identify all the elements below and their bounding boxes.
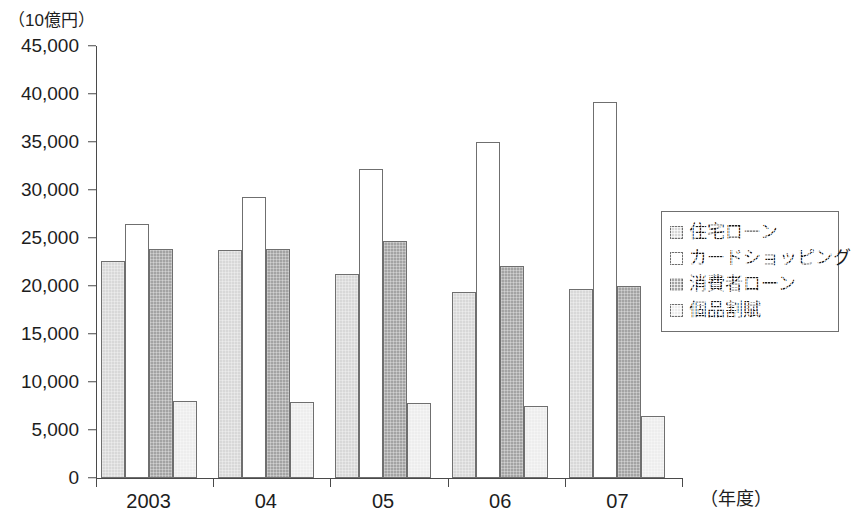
y-axis-tick-label: 5,000 xyxy=(31,419,79,441)
y-axis-tick-label: 40,000 xyxy=(21,83,79,105)
legend-swatch-icon xyxy=(670,226,683,239)
bar xyxy=(218,250,242,478)
y-axis-tick: 10,000 xyxy=(88,381,96,382)
legend-swatch-icon xyxy=(670,304,683,317)
y-axis-tick-label: 25,000 xyxy=(21,227,79,249)
y-axis-tick: 0 xyxy=(88,477,96,478)
bar xyxy=(500,266,524,478)
bar-group xyxy=(569,46,665,478)
y-axis-tick: 30,000 xyxy=(88,189,96,190)
bar xyxy=(266,249,290,478)
y-axis-tick-label: 35,000 xyxy=(21,131,79,153)
x-axis-tick-label: 2003 xyxy=(126,490,171,513)
plot-area: 05,00010,00015,00020,00025,00030,00035,0… xyxy=(96,46,682,478)
x-axis-line xyxy=(96,478,682,479)
legend-item-label: 住宅ローン xyxy=(689,223,778,241)
bar xyxy=(524,406,548,478)
x-axis-tick xyxy=(682,478,683,487)
bar-group xyxy=(335,46,431,478)
x-axis-tick-label: 04 xyxy=(255,490,277,513)
y-axis-tick-label: 0 xyxy=(68,467,79,489)
bar xyxy=(290,402,314,478)
legend-item-label: 個品割賦 xyxy=(689,301,761,319)
bar-group xyxy=(452,46,548,478)
y-axis-tick-label: 45,000 xyxy=(21,35,79,57)
legend-item-label: カードショッピング xyxy=(689,249,851,267)
bar xyxy=(476,142,500,478)
y-axis-tick-label: 15,000 xyxy=(21,323,79,345)
legend-swatch-icon xyxy=(670,278,683,291)
chart-legend: 住宅ローン カードショッピング 消費者ローン 個品割賦 xyxy=(661,211,839,332)
x-axis-tick-label: 06 xyxy=(489,490,511,513)
bar xyxy=(149,249,173,478)
legend-item: 住宅ローン xyxy=(670,219,832,245)
bar xyxy=(617,286,641,478)
bar xyxy=(407,403,431,478)
x-axis-tick xyxy=(96,478,97,487)
bar xyxy=(101,261,125,478)
y-axis-tick-label: 20,000 xyxy=(21,275,79,297)
x-axis-tick xyxy=(330,478,331,487)
legend-item: カードショッピング xyxy=(670,245,832,271)
y-axis-tick-label: 10,000 xyxy=(21,371,79,393)
y-axis-tick: 5,000 xyxy=(88,429,96,430)
legend-item: 消費者ローン xyxy=(670,271,832,297)
x-axis-tick xyxy=(448,478,449,487)
bar xyxy=(335,274,359,478)
bar-group xyxy=(101,46,197,478)
bar xyxy=(242,197,266,478)
bar xyxy=(593,102,617,478)
y-axis-unit-label: （10億円） xyxy=(8,6,95,31)
bar xyxy=(641,416,665,478)
bar xyxy=(359,169,383,478)
y-axis-tick: 40,000 xyxy=(88,93,96,94)
bar xyxy=(452,292,476,478)
bar xyxy=(383,241,407,478)
bar xyxy=(125,224,149,478)
bar-group xyxy=(218,46,314,478)
y-axis-tick: 25,000 xyxy=(88,237,96,238)
y-axis-tick: 15,000 xyxy=(88,333,96,334)
x-axis-caption: （年度） xyxy=(700,484,772,510)
y-axis-tick: 20,000 xyxy=(88,285,96,286)
bar xyxy=(173,401,197,478)
bar xyxy=(569,289,593,478)
x-axis-tick-label: 07 xyxy=(606,490,628,513)
y-axis-tick: 45,000 xyxy=(88,45,96,46)
x-axis-tick xyxy=(213,478,214,487)
legend-item: 個品割賦 xyxy=(670,297,832,323)
y-axis-tick-label: 30,000 xyxy=(21,179,79,201)
legend-swatch-icon xyxy=(670,252,683,265)
legend-item-label: 消費者ローン xyxy=(689,275,796,293)
x-axis-tick xyxy=(565,478,566,487)
x-axis-tick-label: 05 xyxy=(372,490,394,513)
y-axis-tick: 35,000 xyxy=(88,141,96,142)
